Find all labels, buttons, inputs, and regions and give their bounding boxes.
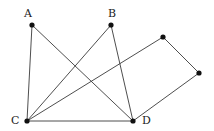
node-c (24, 118, 29, 123)
edge-a-c (27, 25, 32, 121)
node-f (196, 70, 201, 75)
edge-group (27, 25, 199, 121)
node-label-c: C (11, 114, 19, 127)
node-b (108, 22, 113, 27)
edge-b-d (111, 25, 133, 121)
edge-a-d (32, 25, 133, 121)
graph-diagram: ABCD (0, 0, 214, 131)
node-label-a: A (23, 7, 33, 20)
node-e (160, 34, 165, 39)
edge-c-e (27, 37, 163, 121)
node-label-b: B (108, 7, 116, 20)
node-d (130, 118, 135, 123)
node-group (24, 22, 201, 123)
node-a (29, 22, 34, 27)
edge-e-f (163, 37, 199, 73)
node-label-d: D (142, 114, 151, 127)
edge-b-c (27, 25, 111, 121)
